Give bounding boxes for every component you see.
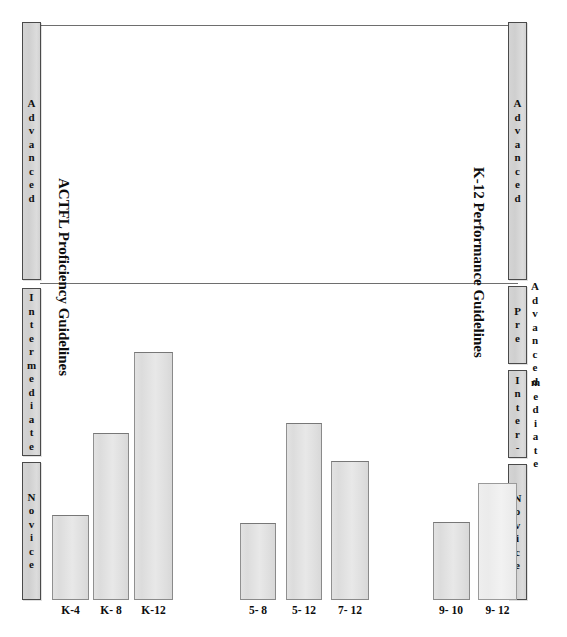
- bar-label-k-12: K-12: [134, 604, 173, 616]
- advanced-boundary-line: [40, 283, 518, 284]
- left-band-advanced: Advanced: [22, 22, 41, 280]
- right-band-pre-advanced-outside-label: Advanced: [531, 280, 539, 388]
- left-axis-title: ACTFL Proficiency Guidelines: [55, 178, 72, 376]
- left-band-intermediate: Intermediate: [22, 288, 41, 456]
- right-band-advanced-label: Advanced: [514, 97, 522, 205]
- right-band-intermediate: Inter-: [508, 370, 527, 458]
- bar-9-12: [478, 483, 517, 600]
- bar-label-5-12: 5- 12: [286, 604, 322, 616]
- bar-k-8: [93, 433, 129, 600]
- right-band-intermediate-label: Inter-: [514, 374, 520, 455]
- bar-k-4: [52, 515, 89, 600]
- bar-label-9-12: 9- 12: [477, 604, 518, 616]
- bar-7-12: [331, 461, 369, 600]
- bar-label-k-4: K-4: [52, 604, 89, 616]
- left-band-advanced-label: Advanced: [28, 97, 36, 205]
- bar-9-10: [433, 522, 470, 600]
- left-band-intermediate-label: Intermediate: [27, 291, 36, 453]
- bar-label-9-10: 9- 10: [431, 604, 471, 616]
- chart-figure: Advanced Intermediate Novice Advanced Pr…: [0, 0, 567, 637]
- bar-5-12: [286, 423, 322, 600]
- right-axis-title: K-12 Performance Guidelines: [470, 167, 487, 358]
- right-band-advanced: Advanced: [508, 22, 527, 280]
- right-band-intermediate-outside-label: mediate: [531, 376, 540, 471]
- bar-label-5-8: 5- 8: [240, 604, 276, 616]
- bar-5-8: [240, 523, 276, 600]
- bar-k-12: [134, 352, 173, 600]
- bar-label-k-8: K- 8: [93, 604, 129, 616]
- right-band-pre-advanced-label: Pre: [514, 305, 521, 346]
- left-band-novice: Novice: [22, 462, 41, 600]
- top-reference-line: [40, 25, 518, 26]
- bar-label-7-12: 7- 12: [331, 604, 369, 616]
- left-band-novice-label: Novice: [28, 491, 36, 572]
- right-band-pre-advanced: Pre: [508, 286, 527, 364]
